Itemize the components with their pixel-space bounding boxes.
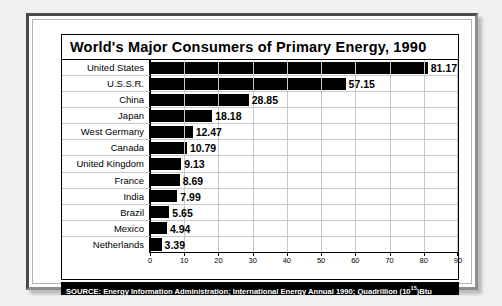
chart-row: India7.99: [62, 189, 458, 205]
bar: [150, 62, 428, 74]
row-plot-area: 3.39: [150, 237, 458, 253]
category-label: U.S.S.R.: [62, 76, 150, 91]
bar: [150, 238, 162, 251]
row-plot-area: 81.17: [150, 60, 458, 75]
chart-card: World's Major Consumers of Primary Energ…: [61, 34, 459, 280]
bar-value-label: 57.15: [346, 76, 375, 92]
bar-value-label: 81.17: [428, 60, 457, 76]
bar: [150, 126, 193, 138]
chart-title: World's Major Consumers of Primary Energ…: [62, 35, 458, 60]
chart-row: Brazil5.65: [62, 205, 458, 221]
x-axis-ticks: 0102030405060708090: [150, 253, 458, 267]
category-label: Mexico: [62, 221, 150, 236]
source-prefix: SOURCE: Energy Information Administratio…: [66, 287, 411, 295]
row-plot-area: 28.85: [150, 92, 458, 107]
bar: [150, 158, 181, 170]
bar-value-label: 5.65: [169, 205, 192, 221]
row-plot-area: 57.15: [150, 76, 458, 91]
bar: [150, 222, 167, 234]
bar-value-label: 4.94: [167, 221, 190, 237]
axis-tick-label: 90: [454, 256, 462, 265]
category-label: United States: [62, 60, 150, 75]
category-label: Japan: [62, 108, 150, 123]
bar-value-label: 28.85: [249, 92, 278, 108]
category-label: China: [62, 92, 150, 107]
bar-value-label: 7.99: [177, 189, 200, 205]
poster-frame: World's Major Consumers of Primary Energ…: [26, 13, 478, 290]
bar: [150, 142, 187, 154]
axis-tick-label: 50: [317, 256, 325, 265]
chart-row: Mexico4.94: [62, 221, 458, 237]
bar-value-label: 10.79: [187, 140, 216, 156]
axis-tick-label: 10: [180, 256, 188, 265]
chart-row: Japan18.18: [62, 108, 458, 124]
chart-row: Netherlands3.39: [62, 237, 458, 253]
row-plot-area: 9.13: [150, 156, 458, 171]
chart-x-axis: 0102030405060708090: [62, 253, 458, 267]
chart-row: United Kingdom9.13: [62, 156, 458, 172]
bar: [150, 78, 346, 90]
row-plot-area: 5.65: [150, 205, 458, 220]
category-label: India: [62, 189, 150, 204]
chart-row: France8.69: [62, 173, 458, 189]
source-note: SOURCE: Energy Information Administratio…: [61, 282, 459, 295]
bar: [150, 174, 180, 186]
category-label: France: [62, 173, 150, 188]
category-label: Canada: [62, 140, 150, 155]
bar-value-label: 3.39: [162, 237, 185, 253]
row-plot-area: 12.47: [150, 124, 458, 139]
axis-tick-label: 20: [214, 256, 222, 265]
row-plot-area: 8.69: [150, 173, 458, 188]
category-label: United Kingdom: [62, 156, 150, 171]
category-label: Netherlands: [62, 237, 150, 253]
bar-value-label: 12.47: [193, 124, 222, 140]
bar: [150, 110, 212, 122]
chart-row: U.S.S.R.57.15: [62, 76, 458, 92]
axis-tick-label: 80: [420, 256, 428, 265]
chart-row: West Germany12.47: [62, 124, 458, 140]
bar: [150, 190, 177, 202]
chart-row: United States81.17: [62, 60, 458, 76]
bar-value-label: 8.69: [180, 173, 203, 189]
row-plot-area: 18.18: [150, 108, 458, 123]
row-plot-area: 7.99: [150, 189, 458, 204]
axis-tick-label: 30: [248, 256, 256, 265]
source-suffix: )Btu: [417, 287, 432, 295]
axis-tick-label: 60: [351, 256, 359, 265]
bar-value-label: 9.13: [181, 156, 204, 172]
chart-plot-area: United States81.17U.S.S.R.57.15China28.8…: [62, 60, 458, 253]
category-label: West Germany: [62, 124, 150, 139]
row-plot-area: 10.79: [150, 140, 458, 155]
axis-tick-label: 40: [283, 256, 291, 265]
chart-row: China28.85: [62, 92, 458, 108]
axis-tick-label: 70: [385, 256, 393, 265]
bar: [150, 94, 249, 106]
bar: [150, 206, 169, 218]
axis-tick-label: 0: [148, 256, 152, 265]
chart-row: Canada10.79: [62, 140, 458, 156]
row-plot-area: 4.94: [150, 221, 458, 236]
category-label: Brazil: [62, 205, 150, 220]
bar-value-label: 18.18: [212, 108, 241, 124]
